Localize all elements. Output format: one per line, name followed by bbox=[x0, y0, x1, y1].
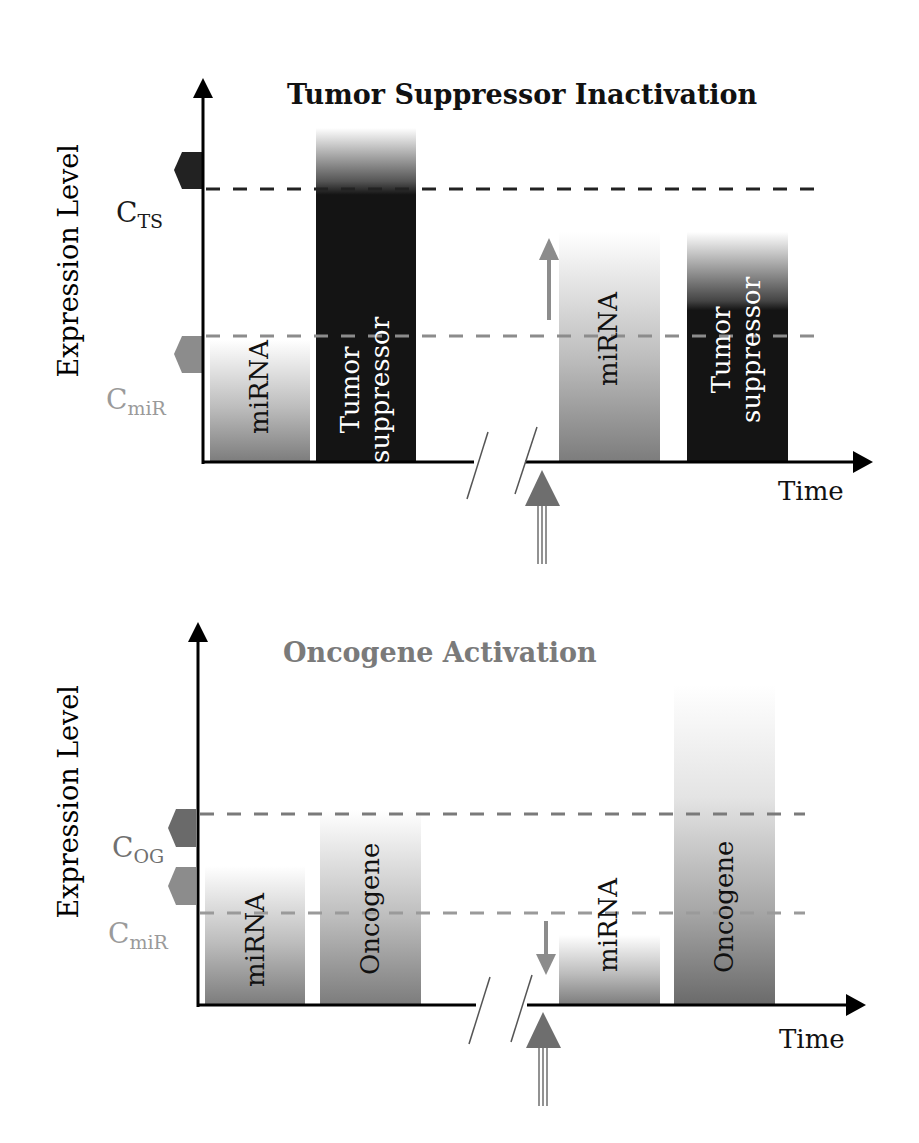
threshold-marker-cmir-icon bbox=[168, 867, 196, 905]
x-axis-arrowhead-icon bbox=[846, 994, 866, 1016]
panel-oncogene bbox=[168, 622, 866, 1106]
y-axis-label: Expression Level bbox=[53, 178, 84, 378]
bar-label-line: suppressor bbox=[737, 265, 767, 435]
bar-label-mirna: miRNA bbox=[241, 880, 271, 1000]
threshold-label-sub: miR bbox=[127, 397, 165, 419]
bar-label-mirna: miRNA bbox=[594, 279, 624, 399]
bar-label-mirna: miRNA bbox=[245, 327, 275, 447]
threshold-label-main: C bbox=[106, 383, 127, 416]
bar-label-tumor-suppressor: Tumorsuppressor bbox=[707, 265, 767, 435]
panel-title: Oncogene Activation bbox=[283, 637, 597, 668]
y-axis-arrowhead-icon bbox=[193, 78, 213, 98]
trigger-arrow-icon bbox=[526, 1012, 561, 1048]
threshold-label-cts: CTS bbox=[116, 196, 163, 232]
bar-label-oncogene: Oncogene bbox=[356, 855, 386, 975]
bar-label-line: suppressor bbox=[366, 305, 396, 475]
bar-label-line: Tumor bbox=[707, 265, 737, 435]
y-axis-label: Expression Level bbox=[53, 719, 84, 919]
panel-title: Tumor Suppressor Inactivation bbox=[287, 79, 757, 110]
threshold-label-cmir: CmiR bbox=[108, 917, 168, 953]
bar-label-line: Tumor bbox=[336, 305, 366, 475]
y-axis-arrowhead-icon bbox=[188, 622, 208, 642]
bar-label-mirna: miRNA bbox=[594, 865, 624, 985]
decrease-arrow-icon bbox=[536, 954, 556, 975]
threshold-marker-cts-icon bbox=[174, 152, 202, 189]
x-axis-arrowhead-icon bbox=[853, 451, 873, 473]
threshold-marker-cog-icon bbox=[168, 809, 196, 847]
axis-break-icon bbox=[467, 432, 488, 499]
threshold-label-main: C bbox=[108, 917, 129, 950]
threshold-label-sub: TS bbox=[137, 210, 163, 232]
threshold-label-sub: OG bbox=[133, 845, 164, 867]
bar-label-tumor-suppressor: Tumorsuppressor bbox=[336, 305, 396, 475]
trigger-arrow-icon bbox=[525, 470, 560, 506]
increase-arrow-icon bbox=[539, 238, 559, 260]
threshold-label-cog: COG bbox=[112, 831, 164, 867]
x-axis-label: Time bbox=[779, 1024, 845, 1054]
diagram-canvas bbox=[0, 0, 919, 1143]
axis-break-icon bbox=[469, 977, 490, 1044]
axis-break-icon bbox=[511, 975, 532, 1042]
threshold-label-cmir: CmiR bbox=[106, 383, 166, 419]
panel-tumor-suppressor bbox=[174, 78, 873, 564]
threshold-label-main: C bbox=[116, 196, 137, 229]
bar-label-oncogene: Oncogene bbox=[710, 853, 740, 973]
threshold-marker-cmir-icon bbox=[174, 336, 202, 373]
threshold-label-sub: miR bbox=[129, 931, 167, 953]
x-axis-label: Time bbox=[778, 476, 844, 506]
threshold-label-main: C bbox=[112, 831, 133, 864]
